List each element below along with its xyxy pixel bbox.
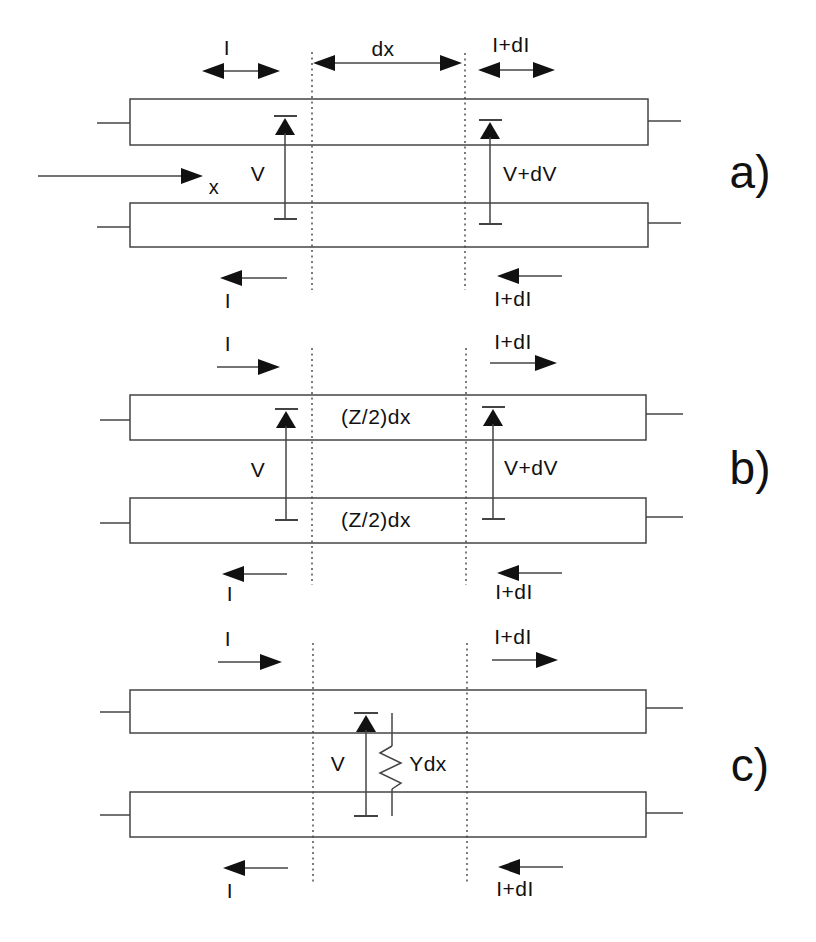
return-current-arrow-left-a-icon [220,270,287,286]
impedance-label-top-b: (Z/2)dx [341,405,411,429]
section-c-linework [100,643,683,883]
section-caption-c: c) [731,738,769,792]
current-arrow-left-c-icon [218,654,282,670]
current-label-bottom-right-c: I+dI [496,877,534,901]
current-arrow-right-c-icon [492,652,558,668]
current-label-bottom-left-c: I [227,879,233,903]
section-caption-a: a) [730,145,771,199]
transmission-line-figure: I dx I+dI x V V+dV I I+dI a) I I+dI (Z/2… [0,0,816,942]
current-label-bottom-left-a: I [225,289,231,313]
current-label-top-right-b: I+dI [494,330,532,354]
conductor-top-c [130,690,646,733]
voltage-label-vdv-b: V+dV [504,456,558,480]
return-current-arrow-left-b-icon [222,566,287,582]
axis-label-x: x [209,176,220,199]
current-arrow-left-b-icon [217,359,280,375]
return-current-arrow-right-c-icon [498,859,563,875]
conductor-bottom-a [130,203,648,247]
conductor-bottom-c [130,792,646,837]
current-label-bottom-right-b: I+dI [495,580,533,604]
current-label-top-left-b: I [225,332,231,356]
voltage-arrow-v-b [275,409,298,520]
voltage-arrow-v-c [354,713,378,816]
current-label-bottom-right-a: I+dI [494,287,532,311]
conductor-top-a [130,99,648,145]
dx-label-a: dx [371,37,394,61]
return-current-arrow-right-b-icon [497,565,562,581]
voltage-arrow-vdv-b [482,407,505,519]
current-extent-arrow-right-icon [478,62,555,78]
admittance-resistor-icon [380,713,401,816]
return-current-arrow-right-a-icon [497,268,562,284]
current-label-top-left-a: I [224,36,230,60]
section-caption-b: b) [730,441,771,495]
return-current-arrow-left-c-icon [223,860,288,876]
current-label-top-right-c: I+dI [494,625,532,649]
figure-linework [0,0,816,942]
section-a-linework [38,52,681,290]
admittance-label-c: Ydx [409,752,447,776]
current-label-bottom-left-b: I [227,582,233,606]
voltage-label-vdv-a: V+dV [503,162,557,186]
x-axis-arrow-icon [38,168,203,184]
voltage-arrow-vdv-a [479,120,502,224]
voltage-label-v-c: V [331,752,346,776]
current-arrow-right-b-icon [490,355,557,371]
voltage-label-v-b: V [251,458,266,482]
current-label-top-right-a: I+dI [492,33,530,57]
current-extent-arrow-left-icon [202,63,280,79]
current-label-top-left-c: I [225,627,231,651]
voltage-label-v-a: V [251,162,266,186]
section-b-linework [100,348,683,585]
impedance-label-bottom-b: (Z/2)dx [341,508,411,532]
